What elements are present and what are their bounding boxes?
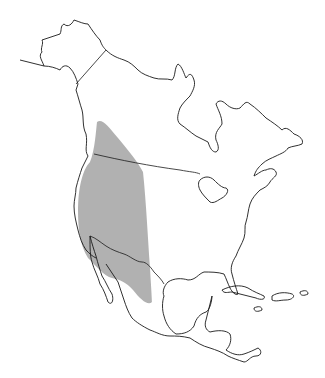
hispaniola (272, 293, 294, 301)
gulf-coast (163, 296, 213, 334)
jamaica (254, 307, 262, 312)
canada-north-coast (106, 50, 303, 152)
coastline (20, 20, 308, 362)
range-map (0, 0, 325, 378)
range-area (78, 121, 152, 303)
alaska-outline (20, 60, 88, 156)
alaska-canada-border (76, 50, 106, 84)
great-lakes (199, 177, 228, 203)
alaska-north-coast (40, 20, 106, 66)
cuba (222, 286, 264, 299)
puerto-rico (300, 291, 308, 296)
